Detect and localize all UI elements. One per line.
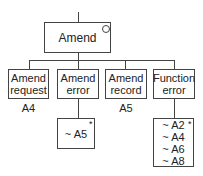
node-function-error: Function error [153,69,195,99]
node-label-line2: record [110,84,141,96]
leaf2-line [174,98,175,118]
node-amend-request: Amend request [8,69,49,99]
child1-line [29,60,30,69]
leaf-item: ~ A6 [162,143,184,155]
selection-circle-icon [102,25,110,33]
leaf-item: ~ A4 [162,131,184,143]
node-label-line2: request [10,84,47,96]
iteration-asterisk-icon: * [188,120,192,129]
child3-line [125,60,126,69]
label-a5: A5 [105,102,147,114]
label-a4: A4 [8,102,49,114]
iteration-asterisk-icon: * [89,120,93,129]
leaf-item: ~ A8 [162,155,184,167]
node-label-line2: error [66,84,89,96]
node-label-line1: Amend [61,72,96,84]
node-amend-error: Amend error [57,69,99,99]
child2-line [78,60,79,69]
leaf-item: ~ A5 [65,128,87,140]
root-incoming-line [78,12,79,22]
node-amend-record: Amend record [105,69,147,99]
child4-line [174,60,175,69]
node-label-line2: error [162,84,185,96]
node-label-line1: Function [153,72,195,84]
root-down-line [78,52,79,60]
leaf-item: ~ A2 [162,119,184,131]
node-label-line1: Amend [11,72,46,84]
node-label-line1: Amend [109,72,144,84]
root-label: Amend [58,32,96,44]
leaf1-line [78,98,79,118]
horizontal-connector [29,60,175,61]
root-node-amend: Amend [44,22,111,53]
